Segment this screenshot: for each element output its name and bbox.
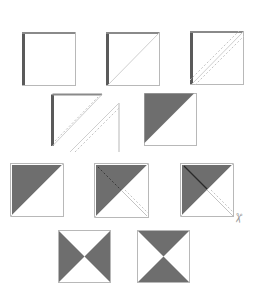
block-plain-square xyxy=(22,32,76,86)
block-hst-sewn xyxy=(180,163,234,217)
scissors-icon: ✂ xyxy=(231,212,246,225)
block-hourglass-horizontal xyxy=(137,230,190,283)
block-hst-pressed xyxy=(144,93,197,146)
block-hst-plain xyxy=(10,163,64,217)
block-diagonal-square xyxy=(106,32,160,86)
block-cut-apart xyxy=(52,94,122,154)
block-hst-marked xyxy=(94,163,149,218)
block-hourglass-vertical xyxy=(58,230,111,283)
block-seam-lines-square xyxy=(190,31,244,85)
